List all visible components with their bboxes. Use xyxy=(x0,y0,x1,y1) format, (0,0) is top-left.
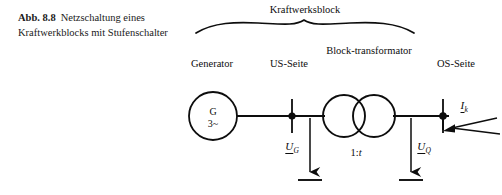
figure-page: Abb. 8.8Netzschaltung eines Kraftwerkblo… xyxy=(0,0,502,195)
brace-kraftwerksblock xyxy=(196,20,414,33)
us-node-dot xyxy=(288,112,295,119)
transformer-secondary-circle xyxy=(353,95,395,137)
circuit-diagram: Kraftwerksblock Generator US-Seite Block… xyxy=(0,0,502,195)
current-arrow-leader xyxy=(452,118,500,134)
diagram-canvas xyxy=(0,0,502,195)
current-arrow-head xyxy=(443,124,455,132)
generator-circle xyxy=(189,92,237,140)
